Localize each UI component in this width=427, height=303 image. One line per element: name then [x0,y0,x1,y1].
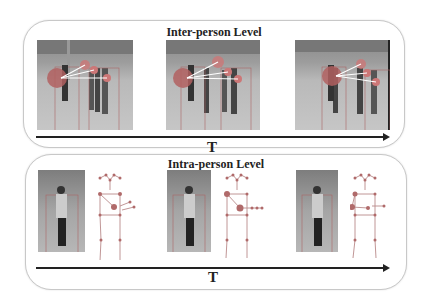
inter-frame-3 [295,40,390,130]
inter-person-title: Inter-person Level [24,25,404,40]
intra-person-image-1 [38,170,85,252]
skeleton-3 [350,170,400,260]
intra-person-image-3 [296,170,338,252]
inter-frame-2 [166,40,260,130]
scene-graph-overlay [37,40,133,130]
scene-graph-overlay [295,40,390,130]
inter-frame-1 [37,40,133,130]
scene-graph-overlay [166,40,260,130]
skeleton-2 [222,170,272,260]
intra-person-image-2 [167,170,211,252]
skeleton-1 [92,170,142,260]
time-label-intra: T [208,269,218,286]
time-arrow-inter [36,136,388,138]
